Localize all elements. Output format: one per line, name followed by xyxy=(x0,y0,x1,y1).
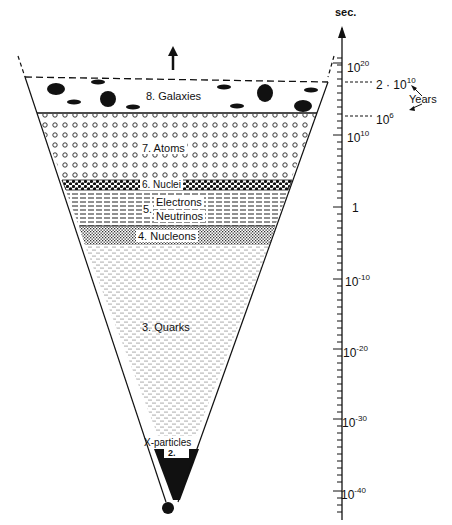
cone-extension-right xyxy=(328,56,334,77)
label-electrons-num: 5. xyxy=(142,203,153,215)
axis-tick-1e10: 1010 xyxy=(347,128,369,144)
axis-tick-1e-10: 10-10 xyxy=(345,272,370,288)
axis-tick-1e-20: 10-20 xyxy=(343,343,368,359)
label-atoms: 7. Atoms xyxy=(140,142,187,154)
axis-tick-1e-30: 10-30 xyxy=(342,413,367,429)
cone-extension-left xyxy=(18,56,25,77)
label-electrons: Electrons xyxy=(154,196,204,208)
axis-marker-age-universe: 2 · 1010 xyxy=(376,75,416,91)
label-neutrinos: Neutrinos xyxy=(154,210,205,222)
label-quarks: 3. Quarks xyxy=(140,321,192,333)
label-nucleons: 4. Nucleons xyxy=(136,230,198,242)
up-arrow-icon xyxy=(168,46,178,70)
years-label: Years xyxy=(409,93,437,105)
axis-tick-1: 1 xyxy=(352,202,359,214)
axis-tick-1e-40: 10-40 xyxy=(341,485,366,501)
axis-tick-1e20: 1020 xyxy=(347,58,369,74)
axis-marker-1e6: 106 xyxy=(376,110,394,126)
axis-unit-label: sec. xyxy=(335,6,356,18)
origin-dot xyxy=(162,502,174,514)
label-galaxies: 8. Galaxies xyxy=(144,90,203,102)
label-nuclei: 6. Nuclei xyxy=(140,179,183,190)
label-x-particles-num: 2. xyxy=(166,448,178,458)
